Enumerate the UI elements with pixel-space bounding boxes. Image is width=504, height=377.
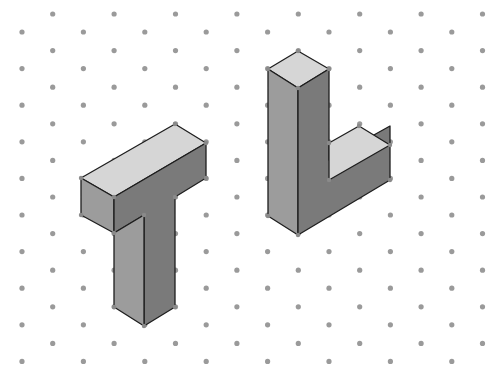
grid-dot: [234, 231, 239, 236]
grid-dot: [142, 359, 147, 364]
grid-dot: [419, 121, 424, 126]
vertex-dot: [112, 305, 116, 309]
grid-dot: [480, 194, 485, 199]
grid-dot: [449, 176, 454, 181]
grid-dot: [357, 48, 362, 53]
grid-dot: [50, 231, 55, 236]
vertex-dot: [204, 176, 208, 180]
grid-dot: [204, 212, 209, 217]
vertex-dot: [173, 195, 177, 199]
grid-dot: [296, 11, 301, 16]
grid-dot: [112, 85, 117, 90]
grid-dot: [419, 85, 424, 90]
grid-dot: [234, 304, 239, 309]
grid-dot: [81, 286, 86, 291]
vertex-dot: [296, 49, 300, 53]
grid-dot: [50, 304, 55, 309]
grid-dot: [19, 212, 24, 217]
l-shape-pillar-left-face: [268, 69, 298, 235]
grid-dot: [81, 139, 86, 144]
grid-dot: [265, 249, 270, 254]
grid-dot: [50, 121, 55, 126]
grid-dot: [265, 286, 270, 291]
grid-dot: [480, 304, 485, 309]
grid-dot: [449, 66, 454, 71]
grid-dot: [265, 359, 270, 364]
grid-dot: [419, 194, 424, 199]
grid-dot: [112, 48, 117, 53]
grid-dot: [112, 341, 117, 346]
grid-dot: [480, 268, 485, 273]
grid-dot: [142, 103, 147, 108]
grid-dot: [204, 66, 209, 71]
grid-dot: [204, 29, 209, 34]
grid-dot: [173, 48, 178, 53]
grid-dot: [81, 322, 86, 327]
grid-dot: [449, 359, 454, 364]
grid-dot: [204, 249, 209, 254]
grid-dot: [19, 286, 24, 291]
vertex-dot: [173, 305, 177, 309]
grid-dot: [449, 249, 454, 254]
grid-dot: [234, 341, 239, 346]
grid-dot: [419, 48, 424, 53]
l-shaped-solid: [266, 49, 392, 237]
grid-dot: [50, 11, 55, 16]
vertex-dot: [79, 176, 83, 180]
grid-dot: [112, 11, 117, 16]
grid-dot: [388, 103, 393, 108]
grid-dot: [81, 249, 86, 254]
grid-dot: [234, 268, 239, 273]
grid-dot: [326, 359, 331, 364]
grid-dot: [419, 11, 424, 16]
grid-dot: [419, 231, 424, 236]
grid-dot: [326, 29, 331, 34]
grid-dot: [480, 11, 485, 16]
grid-dot: [204, 103, 209, 108]
grid-dot: [173, 11, 178, 16]
grid-dot: [326, 322, 331, 327]
grid-dot: [50, 194, 55, 199]
grid-dot: [357, 231, 362, 236]
t-shape-leg-left-face: [114, 215, 144, 326]
grid-dot: [357, 268, 362, 273]
grid-dot: [234, 11, 239, 16]
grid-dot: [357, 341, 362, 346]
grid-dot: [480, 158, 485, 163]
grid-dot: [449, 103, 454, 108]
grid-dot: [357, 304, 362, 309]
grid-dot: [265, 322, 270, 327]
grid-dot: [19, 359, 24, 364]
grid-dot: [234, 194, 239, 199]
grid-dot: [480, 85, 485, 90]
grid-dot: [388, 66, 393, 71]
grid-dot: [173, 341, 178, 346]
vertex-dot: [327, 141, 331, 145]
vertex-dot: [266, 214, 270, 218]
grid-dot: [234, 158, 239, 163]
grid-dot: [388, 249, 393, 254]
grid-dot: [204, 359, 209, 364]
grid-dot: [81, 359, 86, 364]
vertex-dot: [296, 233, 300, 237]
grid-dot: [234, 85, 239, 90]
grid-dot: [142, 66, 147, 71]
vertex-dot: [388, 143, 392, 147]
grid-dot: [449, 322, 454, 327]
grid-dot: [419, 341, 424, 346]
grid-dot: [204, 322, 209, 327]
isometric-canvas: [0, 0, 504, 377]
grid-dot: [480, 231, 485, 236]
grid-dot: [173, 85, 178, 90]
grid-dot: [326, 286, 331, 291]
grid-dot: [480, 121, 485, 126]
grid-dot: [112, 121, 117, 126]
grid-dot: [19, 29, 24, 34]
grid-dot: [357, 85, 362, 90]
vertex-dot: [112, 195, 116, 199]
grid-dot: [449, 29, 454, 34]
grid-dot: [449, 212, 454, 217]
vertex-dot: [79, 213, 83, 217]
grid-dot: [50, 158, 55, 163]
grid-dot: [388, 286, 393, 291]
